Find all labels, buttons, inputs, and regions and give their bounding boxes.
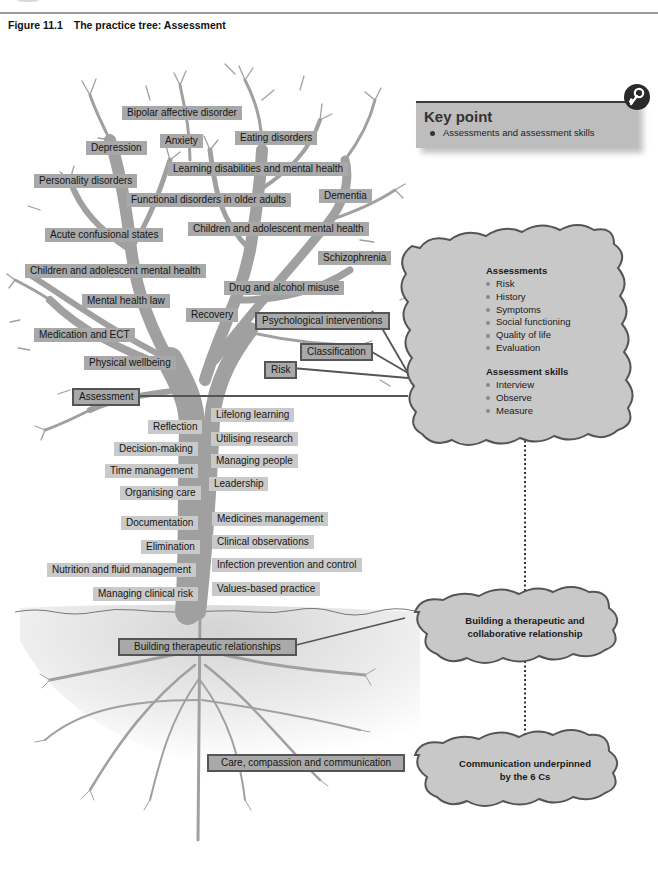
- communication-cloud-text: Communication underpinned by the 6 Cs: [420, 757, 630, 783]
- branch-label-mental-health-law: Mental health law: [82, 294, 170, 308]
- bullet-icon: [486, 383, 490, 387]
- assessment-item-text: Risk: [496, 278, 514, 289]
- bullet-icon: [486, 295, 490, 299]
- assessment-item-text: Social functioning: [496, 316, 570, 327]
- branch-label-camh-right: Children and adolescent mental health: [188, 222, 369, 236]
- branch-label-medication-ect: Medication and ECT: [34, 328, 135, 342]
- trunk-label-time-management: Time management: [105, 464, 198, 478]
- branch-label-recovery: Recovery: [186, 308, 238, 322]
- trunk-label-documentation: Documentation: [121, 516, 198, 530]
- relationship-line-1: Building a therapeutic and: [420, 614, 630, 627]
- bullet-icon: [486, 321, 490, 325]
- trunk-label-managing-clinical-risk: Managing clinical risk: [93, 587, 198, 601]
- bullet-icon: [486, 409, 490, 413]
- branch-label-functional-disorders: Functional disorders in older adults: [126, 193, 291, 207]
- assessment-item-text: History: [496, 291, 526, 302]
- trunk-label-decision-making: Decision-making: [114, 442, 198, 456]
- assessments-list: Assessments Risk History Symptoms Social…: [486, 265, 570, 355]
- trunk-label-clinical-observations: Clinical observations: [212, 535, 314, 549]
- root-label-care-compassion: Care, compassion and communication: [207, 754, 405, 772]
- branch-label-assessment: Assessment: [72, 388, 140, 406]
- branch-label-risk: Risk: [264, 361, 297, 379]
- trunk-label-infection-prevention: Infection prevention and control: [212, 558, 362, 572]
- trunk-label-lifelong-learning: Lifelong learning: [211, 408, 294, 422]
- branch-label-drug-alcohol: Drug and alcohol misuse: [224, 281, 344, 295]
- branch-label-learning-disabilities: Learning disabilities and mental health: [168, 162, 348, 176]
- branch-label-eating-disorders: Eating disorders: [235, 131, 317, 145]
- trunk-label-nutrition: Nutrition and fluid management: [47, 563, 196, 577]
- branch-label-anxiety: Anxiety: [160, 134, 203, 148]
- key-icon: [623, 83, 651, 111]
- branch-label-physical-wellbeing: Physical wellbeing: [84, 356, 176, 370]
- bullet-icon: [486, 334, 490, 338]
- key-point-box: Key point Assessments and assessment ski…: [416, 101, 638, 148]
- branch-label-personality-disorders: Personality disorders: [34, 174, 137, 188]
- relationship-cloud-text: Building a therapeutic and collaborative…: [420, 614, 630, 640]
- skill-item: Observe: [486, 392, 568, 405]
- branch-label-schizophrenia: Schizophrenia: [318, 251, 391, 265]
- skill-item-text: Observe: [496, 392, 532, 403]
- assessment-item: Evaluation: [486, 342, 570, 355]
- assessment-skills-heading: Assessment skills: [486, 366, 568, 377]
- trunk-label-organising-care: Organising care: [120, 486, 201, 500]
- assessment-item-text: Quality of life: [496, 329, 551, 340]
- assessment-item: Social functioning: [486, 316, 570, 329]
- assessment-item-text: Evaluation: [496, 342, 540, 353]
- assessment-item: Quality of life: [486, 329, 570, 342]
- communication-line-1: Communication underpinned: [420, 757, 630, 770]
- branch-label-camh-left: Children and adolescent mental health: [25, 264, 206, 278]
- assessment-item: History: [486, 291, 570, 304]
- assessment-item-text: Symptoms: [496, 304, 541, 315]
- branch-label-psychological-interventions: Psychological interventions: [255, 312, 390, 330]
- bullet-icon: [486, 308, 490, 312]
- branch-label-depression: Depression: [86, 141, 147, 155]
- assessments-heading: Assessments: [486, 265, 570, 276]
- skill-item: Interview: [486, 379, 568, 392]
- key-point-item-text: Assessments and assessment skills: [443, 127, 595, 138]
- communication-line-2: by the 6 Cs: [420, 770, 630, 783]
- relationship-line-2: collaborative relationship: [420, 627, 630, 640]
- trunk-label-managing-people: Managing people: [211, 454, 298, 468]
- trunk-label-medicines-management: Medicines management: [212, 512, 328, 526]
- branch-label-classification: Classification: [300, 343, 373, 361]
- skill-item-text: Interview: [496, 379, 534, 390]
- branch-label-dementia: Dementia: [319, 189, 372, 203]
- assessment-skills-list: Assessment skills Interview Observe Meas…: [486, 366, 568, 417]
- bullet-icon: [430, 131, 435, 136]
- bullet-icon: [486, 346, 490, 350]
- trunk-label-leadership: Leadership: [209, 477, 268, 491]
- key-point-item: Assessments and assessment skills: [430, 127, 595, 138]
- branch-label-acute-confusional: Acute confusional states: [45, 228, 163, 242]
- bullet-icon: [486, 282, 490, 286]
- skill-item: Measure: [486, 405, 568, 418]
- assessment-item: Symptoms: [486, 304, 570, 317]
- key-point-title: Key point: [424, 108, 492, 125]
- bullet-icon: [486, 396, 490, 400]
- root-label-building-relationships: Building therapeutic relationships: [118, 638, 297, 656]
- trunk-label-values-based-practice: Values-based practice: [212, 582, 320, 596]
- assessment-item: Risk: [486, 278, 570, 291]
- branch-label-bipolar: Bipolar affective disorder: [122, 106, 242, 120]
- trunk-label-reflection: Reflection: [148, 420, 202, 434]
- trunk-label-elimination: Elimination: [141, 540, 200, 554]
- trunk-label-utilising-research: Utilising research: [211, 432, 298, 446]
- skill-item-text: Measure: [496, 405, 533, 416]
